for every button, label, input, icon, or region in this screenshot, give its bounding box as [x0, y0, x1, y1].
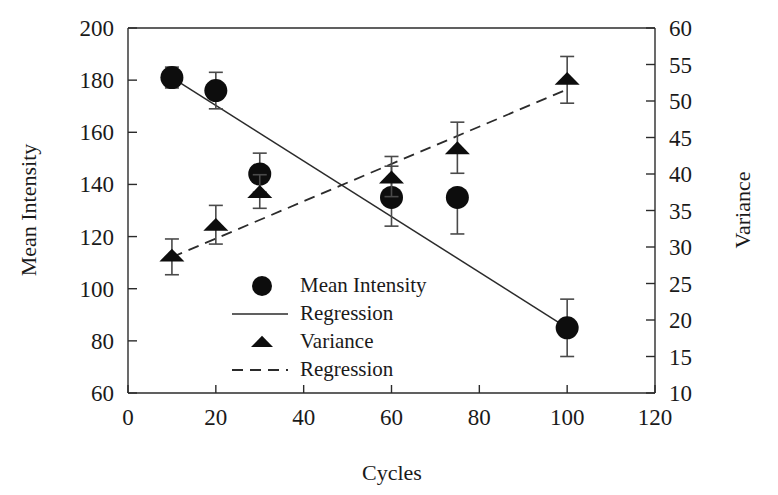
tick-label: 60	[91, 381, 114, 406]
tick-label: 200	[80, 16, 115, 41]
chart-legend: Mean IntensityRegressionVarianceRegressi…	[232, 273, 427, 381]
tick-label: 45	[669, 126, 692, 151]
x-axis-title: Cycles	[362, 460, 422, 485]
tick-label: 40	[669, 162, 692, 187]
y-axis-title: Mean Intensity	[16, 144, 41, 277]
right-axis-ticks	[646, 28, 655, 393]
tick-label: 30	[669, 235, 692, 260]
tick-label: 120	[80, 225, 115, 250]
tick-label: 160	[80, 120, 115, 145]
tick-label: 20	[204, 405, 227, 430]
bottom-axis-tick-labels: 020406080100120	[122, 405, 672, 430]
legend-label: Variance	[300, 329, 373, 353]
chart-figure: 6080100120140160180200 10152025303540455…	[0, 0, 778, 495]
tick-label: 140	[80, 172, 115, 197]
triangle-marker	[379, 171, 404, 184]
legend-item: Regression	[232, 357, 394, 381]
bottom-axis-ticks	[128, 385, 655, 393]
triangle-marker	[247, 185, 272, 198]
left-axis-tick-labels: 6080100120140160180200	[80, 16, 115, 406]
circle-marker	[204, 79, 227, 102]
left-axis-ticks	[128, 28, 137, 393]
legend-label: Mean Intensity	[300, 273, 427, 297]
tick-label: 80	[91, 329, 114, 354]
triangle-marker	[159, 249, 184, 262]
right-axis-tick-labels: 1015202530354045505560	[669, 16, 692, 406]
secondary-y-axis-title: Variance	[730, 172, 755, 249]
tick-label: 25	[669, 272, 692, 297]
triangle-marker	[555, 72, 580, 85]
circle-marker	[556, 316, 579, 339]
tick-label: 100	[80, 277, 115, 302]
circle-marker	[160, 66, 183, 89]
tick-label: 35	[669, 199, 692, 224]
circle-marker	[252, 276, 272, 296]
tick-label: 0	[122, 405, 134, 430]
tick-label: 50	[669, 89, 692, 114]
tick-label: 20	[669, 308, 692, 333]
tick-label: 60	[669, 16, 692, 41]
tick-label: 80	[468, 405, 491, 430]
tick-label: 15	[669, 345, 692, 370]
legend-item: Variance	[251, 329, 373, 353]
tick-label: 60	[380, 405, 403, 430]
triangle-marker	[203, 218, 228, 231]
legend-label: Regression	[300, 357, 394, 381]
tick-label: 100	[550, 405, 585, 430]
circle-marker	[446, 186, 469, 209]
tick-label: 120	[638, 405, 673, 430]
legend-item: Mean Intensity	[252, 273, 427, 297]
legend-label: Regression	[300, 301, 394, 325]
tick-label: 10	[669, 381, 692, 406]
tick-label: 40	[292, 405, 315, 430]
scatter-plot-svg: 6080100120140160180200 10152025303540455…	[0, 0, 778, 495]
triangle-marker	[445, 141, 470, 154]
triangle-marker	[251, 336, 273, 347]
tick-label: 55	[669, 53, 692, 78]
legend-item: Regression	[232, 301, 394, 325]
tick-label: 180	[80, 68, 115, 93]
